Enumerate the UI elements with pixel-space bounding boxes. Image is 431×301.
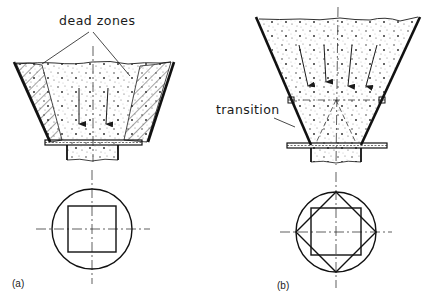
diagram-canvas: dead zones (a) <box>0 0 431 301</box>
outlet-plan-view-b <box>280 172 392 288</box>
bulk-material-b <box>259 17 418 162</box>
caption-a: (a) <box>12 278 24 289</box>
panel-b: transition (b) <box>216 7 420 291</box>
leader-line-left <box>42 32 89 64</box>
leader-line-transition <box>274 118 295 127</box>
dead-zones-label: dead zones <box>59 13 136 28</box>
panel-a: dead zones (a) <box>12 13 174 289</box>
caption-b: (b) <box>277 280 289 291</box>
outlet-plan-view-a <box>36 170 150 284</box>
transition-label: transition <box>216 102 280 117</box>
